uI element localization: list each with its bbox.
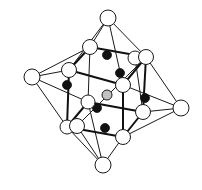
center-atom-sphere: [102, 90, 112, 100]
apex-atom-bottom: [95, 157, 111, 173]
crystal-structure-diagram: [0, 0, 202, 190]
black-atom: [141, 94, 150, 103]
black-atom: [103, 51, 112, 60]
white-atom: [116, 130, 131, 145]
apex-atom-right: [173, 100, 189, 116]
apex-atom-top: [100, 10, 116, 26]
white-atom: [81, 95, 95, 109]
white-atom: [70, 119, 85, 134]
white-atom: [139, 50, 154, 65]
white-atom: [116, 78, 131, 93]
black-atom: [116, 69, 125, 78]
white-atom: [62, 63, 77, 78]
black-atom: [101, 124, 110, 133]
white-atom: [83, 40, 98, 55]
apex-atom-left: [24, 69, 40, 85]
black-atom: [63, 81, 72, 90]
center-atom: [102, 90, 112, 100]
white-atom: [136, 105, 151, 120]
